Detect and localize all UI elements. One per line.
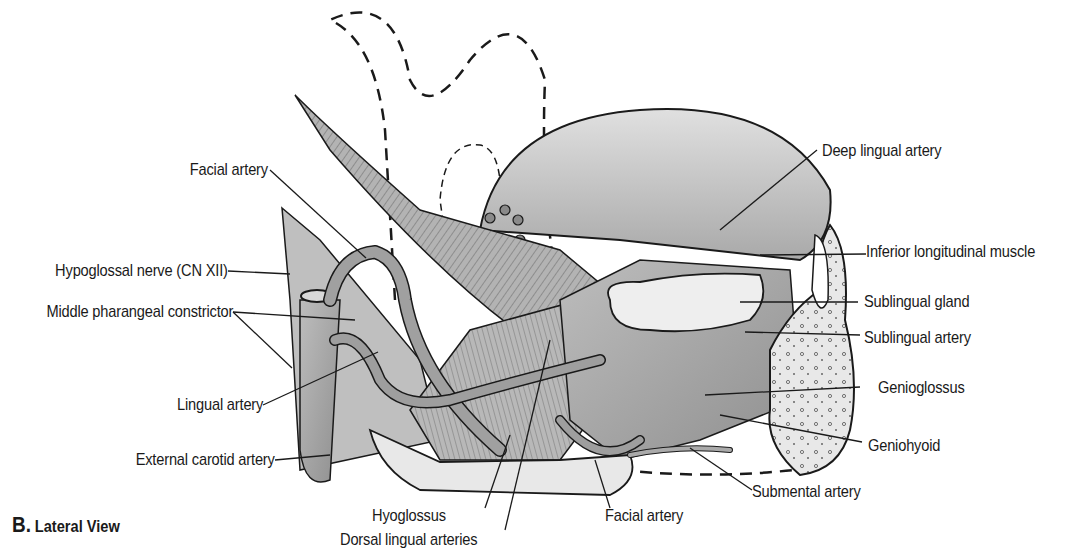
label-external-carotid-artery: External carotid artery	[136, 450, 275, 470]
label-submental-artery: Submental artery	[752, 482, 861, 502]
label-lingual-artery: Lingual artery	[177, 395, 263, 415]
label-geniohyoid: Geniohyoid	[868, 436, 940, 456]
label-hypoglossal-nerve: Hypoglossal nerve (CN XII)	[55, 261, 228, 281]
label-middle-pharangeal-constrictor: Middle pharangeal constrictor	[46, 302, 233, 322]
label-sublingual-gland: Sublingual gland	[864, 292, 969, 312]
dashed-floor-outline	[620, 468, 810, 475]
label-facial-artery-top: Facial artery	[190, 160, 268, 180]
label-deep-lingual-artery: Deep lingual artery	[822, 141, 941, 161]
label-dorsal-lingual-arteries: Dorsal lingual arteries	[340, 530, 477, 550]
label-genioglossus: Genioglossus	[878, 378, 965, 398]
figure-caption: B. Lateral View	[12, 512, 120, 538]
caption-text: Lateral View	[35, 517, 120, 536]
tongue-body	[480, 109, 831, 260]
label-sublingual-artery: Sublingual artery	[864, 328, 971, 348]
label-inferior-longitudinal-muscle: Inferior longitudinal muscle	[866, 242, 1035, 262]
label-facial-artery-bottom: Facial artery	[605, 506, 683, 526]
caption-letter: B.	[12, 512, 31, 537]
label-hyoglossus: Hyoglossus	[372, 506, 446, 526]
